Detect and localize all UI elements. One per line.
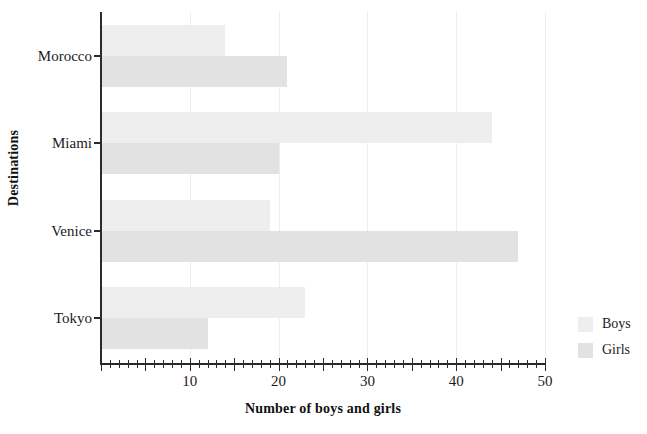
x-tick-label: 50 bbox=[538, 374, 553, 389]
x-tick-minor bbox=[119, 360, 120, 368]
x-tick-minor bbox=[509, 360, 510, 368]
x-tick-minor bbox=[172, 360, 173, 368]
x-tick-minor bbox=[430, 360, 431, 368]
x-tick-minor bbox=[199, 360, 200, 368]
x-tick-minor bbox=[181, 360, 182, 368]
x-tick-minor bbox=[128, 360, 129, 368]
gridline bbox=[456, 12, 457, 362]
legend-item-boys[interactable]: Boys bbox=[578, 313, 647, 335]
bar-morocco-girls bbox=[101, 56, 287, 87]
x-tick-minor bbox=[465, 360, 466, 368]
x-tick-minor bbox=[163, 360, 164, 368]
x-tick-minor bbox=[536, 360, 537, 368]
y-tick bbox=[94, 317, 101, 319]
x-tick-minor bbox=[252, 360, 253, 368]
y-tick bbox=[94, 55, 101, 57]
x-tick-minor bbox=[261, 360, 262, 368]
x-tick-minor bbox=[385, 360, 386, 368]
y-axis-title: Destinations bbox=[6, 108, 22, 228]
x-tick-minor bbox=[447, 360, 448, 368]
bar-morocco-boys bbox=[101, 25, 225, 56]
x-tick-minor bbox=[483, 360, 484, 368]
bar-miami-girls bbox=[101, 143, 279, 174]
x-tick-minor bbox=[137, 360, 138, 368]
x-tick-minor bbox=[376, 360, 377, 368]
x-tick-minor bbox=[208, 360, 209, 368]
legend-swatch-icon bbox=[578, 343, 593, 358]
x-tick-major bbox=[412, 358, 413, 371]
legend-label: Boys bbox=[602, 317, 631, 331]
legend-swatch-icon bbox=[578, 317, 593, 332]
x-tick-major bbox=[234, 358, 235, 371]
bar-venice-girls bbox=[101, 231, 518, 262]
x-tick-minor bbox=[438, 360, 439, 368]
x-tick-minor bbox=[341, 360, 342, 368]
x-tick-major bbox=[145, 358, 146, 371]
x-tick-label: 10 bbox=[182, 374, 197, 389]
legend: BoysGirls bbox=[578, 313, 647, 365]
x-tick-label: 30 bbox=[360, 374, 375, 389]
x-tick-major bbox=[501, 358, 502, 371]
x-tick-label: 20 bbox=[271, 374, 286, 389]
y-tick bbox=[94, 142, 101, 144]
x-tick-major bbox=[190, 358, 191, 371]
x-tick-minor bbox=[225, 360, 226, 368]
x-tick-minor bbox=[474, 360, 475, 368]
legend-item-girls[interactable]: Girls bbox=[578, 339, 647, 361]
bar-tokyo-boys bbox=[101, 287, 305, 318]
x-tick-minor bbox=[216, 360, 217, 368]
bar-miami-boys bbox=[101, 112, 492, 143]
y-axis-line bbox=[100, 12, 102, 364]
gridline bbox=[367, 12, 368, 362]
legend-label: Girls bbox=[602, 343, 630, 357]
x-tick-minor bbox=[350, 360, 351, 368]
x-tick-major bbox=[279, 358, 280, 371]
x-tick-major bbox=[323, 358, 324, 371]
x-tick-minor bbox=[270, 360, 271, 368]
x-tick-minor bbox=[154, 360, 155, 368]
y-tick-label-tokyo: Tokyo bbox=[2, 311, 92, 326]
y-tick-label-morocco: Morocco bbox=[2, 48, 92, 63]
x-tick-minor bbox=[332, 360, 333, 368]
x-tick-minor bbox=[359, 360, 360, 368]
x-tick-minor bbox=[287, 360, 288, 368]
bar-tokyo-girls bbox=[101, 318, 208, 349]
x-tick-minor bbox=[314, 360, 315, 368]
x-tick-minor bbox=[394, 360, 395, 368]
y-tick bbox=[94, 230, 101, 232]
x-tick-minor bbox=[243, 360, 244, 368]
gridline bbox=[545, 12, 546, 362]
x-tick-minor bbox=[492, 360, 493, 368]
x-tick-major bbox=[367, 358, 368, 371]
x-tick-major bbox=[545, 358, 546, 371]
x-tick-major bbox=[101, 358, 102, 371]
x-tick-label: 40 bbox=[449, 374, 464, 389]
x-tick-minor bbox=[403, 360, 404, 368]
x-tick-minor bbox=[527, 360, 528, 368]
bar-venice-boys bbox=[101, 200, 270, 231]
x-axis-title: Number of boys and girls bbox=[101, 401, 545, 417]
x-tick-minor bbox=[296, 360, 297, 368]
bar-chart: 1020304050 MoroccoMiamiVeniceTokyo Numbe… bbox=[0, 0, 647, 434]
x-tick-major bbox=[456, 358, 457, 371]
x-tick-minor bbox=[110, 360, 111, 368]
x-tick-minor bbox=[421, 360, 422, 368]
x-tick-minor bbox=[518, 360, 519, 368]
x-tick-minor bbox=[305, 360, 306, 368]
plot-area bbox=[101, 12, 545, 362]
